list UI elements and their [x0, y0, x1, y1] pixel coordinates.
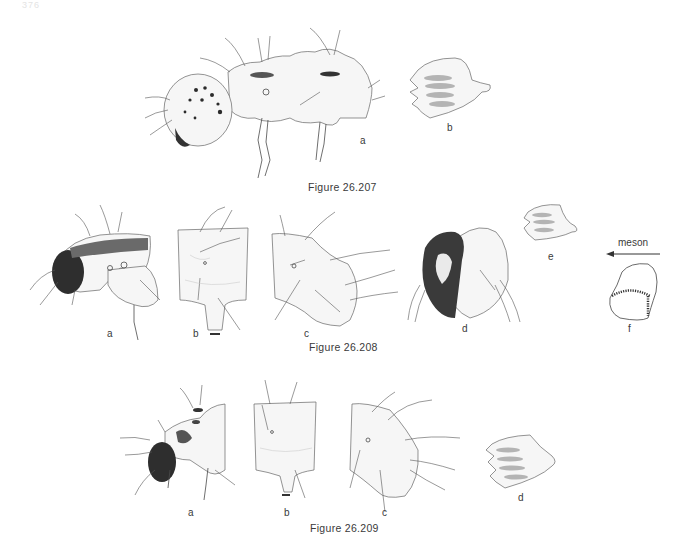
fig-209-caption: Figure 26.209: [310, 522, 379, 534]
fig-208-panel-b-label: b: [193, 328, 199, 339]
fig-208-panel-a-label: a: [107, 328, 113, 339]
fig-209-panel-b-label: b: [284, 507, 290, 518]
fig-207-caption: Figure 26.207: [308, 181, 377, 193]
fig-208-panel-e-label: e: [548, 251, 554, 262]
figure-illustrations: [0, 0, 679, 543]
fig-208c-segment-drawing: [272, 212, 398, 326]
fig-207b-sclerite-drawing: [410, 58, 490, 118]
fig-209b-segment-drawing: [254, 380, 316, 498]
fig-208f-sclerite-drawing: [610, 264, 657, 320]
fig-207-panel-b-label: b: [447, 122, 453, 133]
fig-208d-head-capsule-drawing: [408, 228, 520, 322]
fig-208-caption: Figure 26.208: [309, 341, 378, 353]
fig-208e-sclerite-drawing: [524, 205, 577, 240]
fig-209-panel-c-label: c: [382, 507, 387, 518]
fig-209d-sclerite-drawing: [486, 435, 555, 488]
fig-209-panel-d-label: d: [518, 492, 524, 503]
fig-208-panel-c-label: c: [304, 328, 309, 339]
fig-208b-segment-drawing: [178, 207, 248, 335]
meson-annotation: meson: [618, 237, 648, 248]
meson-arrow: [606, 251, 660, 257]
fig-208-panel-d-label: d: [462, 323, 468, 334]
fig-207-panel-a-label: a: [360, 135, 366, 146]
fig-209-panel-a-label: a: [188, 507, 194, 518]
fig-209a-larva-drawing: [120, 385, 235, 500]
fig-208-panel-f-label: f: [628, 323, 631, 334]
fig-208a-larva-drawing: [30, 205, 160, 340]
fig-209c-segment-drawing: [350, 392, 460, 512]
fig-207a-larva-drawing: [145, 28, 385, 178]
